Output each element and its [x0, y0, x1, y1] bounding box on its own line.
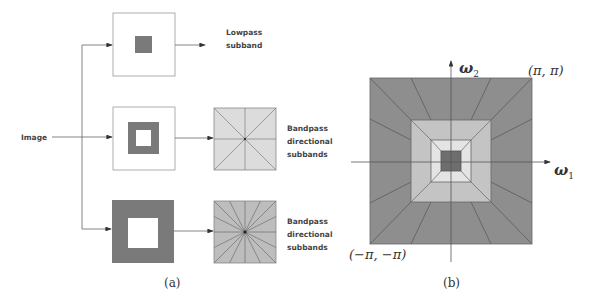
corner-top-right-label: (π, π) [528, 63, 564, 78]
omega2-symbol: ω [459, 59, 473, 77]
bandpass-2-label-line2: directional [287, 228, 332, 241]
directional-box-8 [214, 108, 276, 170]
bandpass-1-label-line1: Bandpass [287, 122, 332, 135]
image-input-label: Image [21, 131, 47, 144]
lowpass-label-line2: subband [226, 39, 262, 52]
omega2-label: ω2 [459, 59, 479, 79]
caption-b: (b) [443, 276, 460, 290]
bandpass-2-label-line1: Bandpass [287, 215, 332, 228]
bandpass-ring-2-hole [128, 218, 158, 248]
omega1-symbol: ω [554, 161, 568, 179]
bandpass-2-label-line3: subbands [287, 241, 332, 254]
corner-bottom-left-label: (−π, −π) [349, 247, 406, 262]
directional-box-16 [214, 201, 276, 263]
omega2-subscript: 2 [473, 69, 479, 79]
panel-b [351, 61, 550, 262]
caption-a: (a) [164, 276, 181, 290]
bandpass-1-label-line3: subbands [287, 148, 332, 161]
lowpass-label: Lowpass subband [226, 26, 262, 52]
bandpass-1-label-line2: directional [287, 135, 332, 148]
omega1-subscript: 1 [568, 171, 574, 181]
lowpass-square [135, 36, 152, 53]
bandpass-1-label: Bandpass directional subbands [287, 122, 332, 161]
omega1-label: ω1 [554, 161, 574, 181]
bandpass-ring-1-hole [136, 130, 151, 146]
lowpass-label-line1: Lowpass [226, 26, 262, 39]
bandpass-2-label: Bandpass directional subbands [287, 215, 332, 254]
